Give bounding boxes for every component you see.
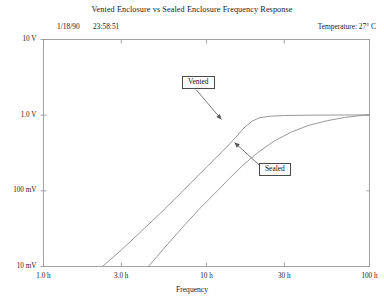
curve-sealed [148,115,369,267]
curve-vented [102,115,369,267]
axis-ticks [41,40,370,267]
x-tick-label-4: 100 h [346,272,384,280]
leader-sealed [235,143,263,168]
data-curves [102,115,369,267]
y-tick-label-0: 10 V [0,35,37,43]
x-axis-title: Frequency [0,285,384,294]
chart-page: Vented Enclosure vs Sealed Enclosure Fre… [0,0,384,303]
x-tick-label-2: 10 h [183,272,231,280]
plot-frame [44,40,370,267]
callout-sealed[interactable]: Sealed [259,163,291,176]
annotation-leaders [196,90,262,168]
x-tick-label-1: 3.0 h [97,272,145,280]
x-tick-label-0: 1.0 h [20,272,68,280]
y-tick-label-3: 10 mV [0,262,37,270]
plot-canvas [0,0,384,303]
x-tick-label-3: 30 h [260,272,308,280]
y-tick-label-1: 1.0 V [0,111,37,119]
y-tick-label-2: 100 mV [0,186,37,194]
callout-vented[interactable]: Vented [182,76,215,89]
leader-vented [196,90,222,120]
